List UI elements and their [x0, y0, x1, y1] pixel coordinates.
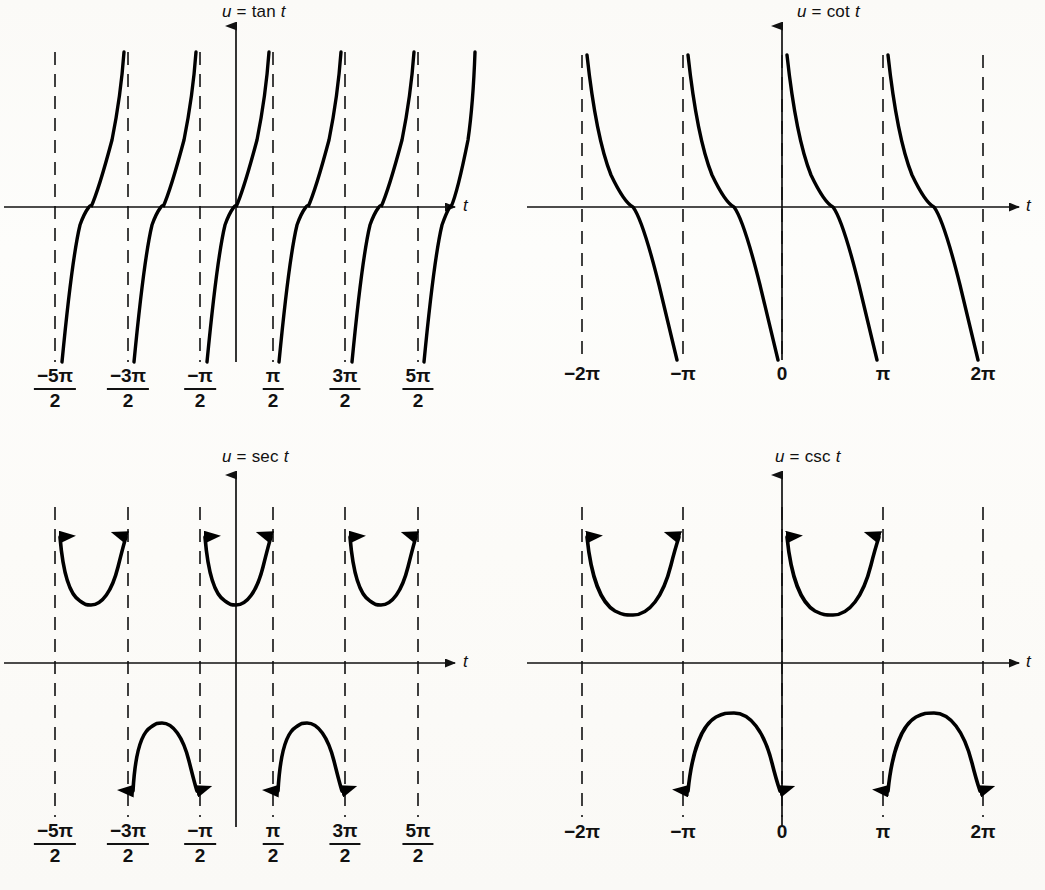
panel-sec: u = sec t — [0, 445, 523, 890]
panel-cot-title: u = cot t — [797, 2, 860, 22]
sec-tick-neg5pi2: −5π 2 — [34, 821, 76, 866]
sec-tick-pos3pi2: 3π 2 — [329, 821, 360, 866]
title-equals: = — [790, 447, 800, 466]
tick-numerator: −π — [184, 821, 216, 845]
tan-tick-pos3pi2: 3π 2 — [329, 366, 360, 411]
tick-denominator: 2 — [329, 845, 360, 867]
tick-denominator: 2 — [34, 390, 76, 412]
tick-denominator: 2 — [184, 390, 216, 412]
tick-numerator: −π — [184, 366, 216, 390]
title-variable-u: u — [222, 447, 232, 466]
title-function-name: sec — [252, 447, 279, 466]
tick-denominator: 2 — [107, 845, 149, 867]
tick-denominator: 2 — [329, 390, 360, 412]
csc-branch-up-1 — [587, 537, 679, 615]
tick-denominator: 2 — [184, 845, 216, 867]
sec-tick-pospi2: π 2 — [263, 821, 284, 866]
tick-numerator: −5π — [34, 821, 76, 845]
tick-numerator: 5π — [402, 821, 433, 845]
tick-numerator: −3π — [107, 821, 149, 845]
sec-branch-down-2 — [278, 723, 342, 791]
title-variable-u: u — [797, 2, 807, 21]
tick-numerator: 3π — [329, 366, 360, 390]
sec-t-axis-label: t — [463, 652, 468, 672]
title-argument-t: t — [284, 447, 289, 466]
sec-tick-pos5pi2: 5π 2 — [402, 821, 433, 866]
cot-tick-negpi: −π — [670, 363, 696, 385]
cot-tick-pospi: π — [876, 363, 891, 385]
csc-downward-branch-group — [688, 713, 980, 791]
title-argument-t: t — [855, 2, 860, 21]
title-equals: = — [237, 2, 247, 21]
sec-branch-up-3 — [350, 537, 416, 605]
csc-branch-up-2 — [787, 537, 879, 615]
csc-branch-down-2 — [888, 713, 980, 791]
csc-tick-neg2pi: −2π — [564, 821, 600, 843]
cot-tick-zero: 0 — [777, 363, 788, 385]
title-argument-t: t — [836, 447, 841, 466]
title-function-name: cot — [827, 2, 850, 21]
tick-denominator: 2 — [402, 390, 433, 412]
tick-denominator: 2 — [107, 390, 149, 412]
tick-numerator: 5π — [402, 366, 433, 390]
panel-sec-plot — [0, 445, 523, 890]
csc-branch-down-1 — [688, 713, 780, 791]
tan-tick-negpi2: −π 2 — [184, 366, 216, 411]
csc-t-axis-label: t — [1026, 652, 1031, 672]
sec-branch-up-1 — [60, 537, 126, 605]
panel-tan: u = tan t — [0, 0, 523, 445]
csc-upward-branch-group — [587, 537, 879, 615]
csc-tick-pos2pi: 2π — [970, 821, 995, 843]
tick-denominator: 2 — [263, 390, 284, 412]
csc-tick-negpi: −π — [670, 821, 696, 843]
tick-denominator: 2 — [263, 845, 284, 867]
sec-branch-down-1 — [133, 723, 197, 791]
sec-downward-branch-group — [133, 723, 342, 791]
panel-sec-title: u = sec t — [222, 447, 289, 467]
cot-t-axis-label: t — [1026, 196, 1031, 216]
title-variable-u: u — [775, 447, 785, 466]
title-equals: = — [812, 2, 822, 21]
csc-tick-zero: 0 — [777, 821, 788, 843]
csc-tick-pospi: π — [876, 821, 891, 843]
tick-numerator: 3π — [329, 821, 360, 845]
tick-denominator: 2 — [34, 845, 76, 867]
tick-numerator: π — [263, 821, 284, 845]
sec-tick-negpi2: −π 2 — [184, 821, 216, 866]
tick-denominator: 2 — [402, 845, 433, 867]
cot-tick-neg2pi: −2π — [564, 363, 600, 385]
panel-tan-plot — [0, 0, 523, 445]
tan-tick-neg3pi2: −3π 2 — [107, 366, 149, 411]
panel-cot: u = cot t t −2π −π 0 π — [523, 0, 1045, 445]
title-argument-t: t — [281, 2, 286, 21]
tan-tick-neg5pi2: −5π 2 — [34, 366, 76, 411]
title-equals: = — [237, 447, 247, 466]
sec-upward-branch-group — [60, 537, 416, 605]
title-function-name: csc — [805, 447, 831, 466]
tan-t-axis-label: t — [463, 196, 468, 216]
title-variable-u: u — [222, 2, 232, 21]
sec-branch-up-2 — [205, 537, 271, 605]
tan-tick-pos5pi2: 5π 2 — [402, 366, 433, 411]
panel-csc: u = csc t t − — [523, 445, 1045, 890]
tan-tick-pospi2: π 2 — [263, 366, 284, 411]
figure-page: u = tan t — [0, 0, 1045, 890]
title-function-name: tan — [252, 2, 276, 21]
cot-tick-pos2pi: 2π — [970, 363, 995, 385]
panel-csc-title: u = csc t — [775, 447, 841, 467]
sec-tick-neg3pi2: −3π 2 — [107, 821, 149, 866]
panel-tan-title: u = tan t — [222, 2, 286, 22]
tick-numerator: π — [263, 366, 284, 390]
tick-numerator: −3π — [107, 366, 149, 390]
tick-numerator: −5π — [34, 366, 76, 390]
